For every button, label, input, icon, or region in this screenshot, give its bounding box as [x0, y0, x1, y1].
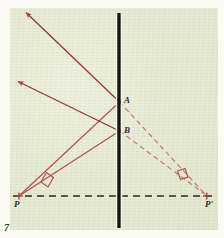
reflected-ray-from-b — [18, 82, 120, 132]
figure-root: A B P P' 7 — [0, 0, 224, 238]
point-p-label: P — [14, 200, 20, 209]
virtual-ray-b-to-p-prime — [120, 131, 207, 195]
point-b-label: B — [124, 126, 130, 135]
point-p-prime-label: P' — [205, 200, 213, 209]
plane-mirror — [117, 13, 122, 228]
virtual-ray-a-to-p-prime — [120, 102, 207, 195]
figure-number: 7 — [4, 222, 9, 233]
incident-ray-p-to-b — [19, 131, 120, 196]
reflected-ray-from-a — [26, 13, 120, 103]
point-a-label: A — [124, 96, 130, 105]
ray-diagram-svg — [0, 0, 224, 238]
incident-ray-p-to-a — [19, 102, 120, 196]
